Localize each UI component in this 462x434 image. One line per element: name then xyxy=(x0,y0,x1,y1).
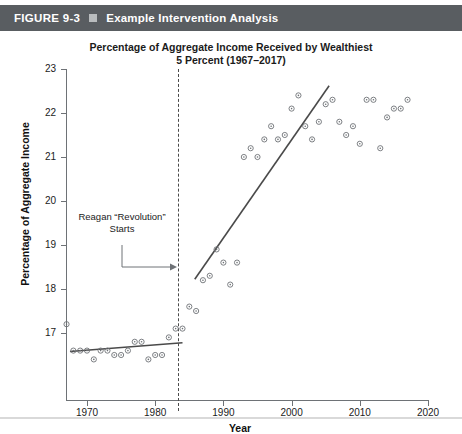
data-point-marker xyxy=(119,352,124,357)
data-point-marker xyxy=(255,154,260,159)
data-point-marker xyxy=(371,97,376,102)
data-point-marker xyxy=(282,132,287,137)
data-point-marker xyxy=(262,137,267,142)
data-point-marker xyxy=(64,322,69,327)
figure-header-bar: FIGURE 9-3 Example Intervention Analysis xyxy=(0,5,462,31)
data-point-marker xyxy=(316,119,321,124)
data-point-marker xyxy=(344,132,349,137)
figure-header-content: FIGURE 9-3 Example Intervention Analysis xyxy=(14,5,278,31)
data-point-marker xyxy=(391,106,396,111)
data-point-marker xyxy=(207,273,212,278)
data-point-marker xyxy=(234,260,239,265)
data-point-marker xyxy=(194,308,199,313)
data-point-marker xyxy=(132,339,137,344)
data-point-marker xyxy=(166,335,171,340)
data-point-marker xyxy=(330,97,335,102)
data-point-marker xyxy=(364,97,369,102)
data-point-marker xyxy=(139,339,144,344)
data-point-marker xyxy=(180,326,185,331)
data-point-marker xyxy=(296,93,301,98)
data-point-marker xyxy=(337,119,342,124)
data-point-marker xyxy=(159,352,164,357)
data-point-marker xyxy=(405,97,410,102)
data-point-marker xyxy=(303,124,308,129)
data-point-marker xyxy=(384,115,389,120)
data-point-marker xyxy=(357,141,362,146)
figure-number-label: FIGURE 9-3 xyxy=(14,12,80,24)
chart-plot-overlay xyxy=(0,33,462,416)
data-point-marker xyxy=(350,124,355,129)
data-point-marker xyxy=(112,352,117,357)
data-point-marker xyxy=(398,106,403,111)
data-point-marker xyxy=(91,357,96,362)
figure-caption-title: Example Intervention Analysis xyxy=(106,12,278,24)
data-point-marker xyxy=(153,352,158,357)
data-point-marker xyxy=(309,137,314,142)
data-point-marker xyxy=(378,146,383,151)
data-point-marker xyxy=(275,137,280,142)
data-point-marker xyxy=(248,146,253,151)
data-point-marker xyxy=(323,102,328,107)
data-point-marker xyxy=(241,154,246,159)
post-intervention-trend xyxy=(195,86,329,280)
bottom-divider xyxy=(0,417,462,419)
data-point-marker xyxy=(187,304,192,309)
trend-lines xyxy=(70,86,329,352)
data-point-marker xyxy=(269,124,274,129)
annotation-arrow xyxy=(122,245,177,271)
data-point-marker xyxy=(228,282,233,287)
data-point-marker xyxy=(221,260,226,265)
data-points xyxy=(64,93,410,362)
data-point-marker xyxy=(146,357,151,362)
square-bullet-icon xyxy=(89,14,97,22)
data-point-marker xyxy=(289,106,294,111)
x-axis-label: Year xyxy=(180,422,300,434)
data-point-marker xyxy=(200,278,205,283)
chart-container: Percentage of Aggregate Income Received … xyxy=(0,33,462,416)
data-point-marker xyxy=(125,348,130,353)
data-point-marker xyxy=(173,326,178,331)
